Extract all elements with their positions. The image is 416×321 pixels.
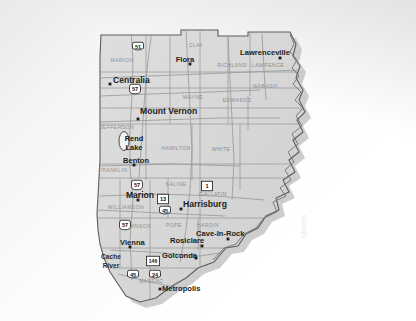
route-number: 57 <box>132 86 138 92</box>
county-label: WAYNE <box>183 94 204 100</box>
county-label: WABASH <box>253 83 278 89</box>
route-shield-us[interactable]: 24 <box>150 270 161 278</box>
county-label: FRANKLIN <box>99 167 128 173</box>
water-label-line1: Cache <box>101 253 121 260</box>
city-label: Benton <box>123 156 150 165</box>
water-label-line2: River <box>103 262 120 269</box>
city-marker[interactable]: Golconda <box>162 251 198 260</box>
city-label: Marion <box>126 190 154 200</box>
city-marker[interactable]: Flora <box>176 55 195 65</box>
route-shield-interstate[interactable]: 57 <box>120 220 131 230</box>
city-label: Metropolis <box>162 284 200 293</box>
route-number: 57 <box>134 182 140 188</box>
city-dot <box>137 118 140 121</box>
route-number: 57 <box>122 222 128 228</box>
route-number: 24 <box>152 272 159 278</box>
water-label: CacheRiver <box>101 253 121 269</box>
city-label: Rosiclare <box>170 236 204 245</box>
city-label: Flora <box>176 55 195 64</box>
city-dot <box>109 83 112 86</box>
city-dot <box>201 245 204 248</box>
route-number: 13 <box>160 196 166 202</box>
route-shield-state[interactable]: 1 <box>202 181 213 191</box>
city-marker[interactable]: Metropolis <box>159 284 201 293</box>
route-shield-interstate[interactable]: 57 <box>132 180 143 190</box>
city-dot <box>180 208 183 211</box>
city-marker[interactable]: Centralia <box>109 75 150 85</box>
city-label: Harrisburg <box>183 199 227 209</box>
county-label: WILLIAMSON <box>108 204 144 210</box>
county-label: RICHLAND <box>217 62 247 68</box>
city-dot <box>279 57 282 60</box>
county-label: HAMILTON <box>161 145 190 151</box>
city-marker[interactable]: Vienna <box>120 238 146 248</box>
illinois-region-map[interactable]: CLAYMARIONRICHLANDLAWRENCEWABASHWAYNEEDW… <box>0 0 416 321</box>
map-watermark: Illinois <box>300 215 307 238</box>
city-label: Centralia <box>113 75 150 85</box>
route-number: 45 <box>162 208 168 214</box>
water-label: RendLake <box>125 134 144 152</box>
route-shield-state[interactable]: 146 <box>147 256 160 266</box>
route-shield-interstate[interactable]: 57 <box>130 84 141 94</box>
county-label: CLAY <box>189 42 204 48</box>
water-label-line2: Lake <box>126 143 143 152</box>
route-shield-us[interactable]: 45 <box>128 270 139 278</box>
city-label: Lawrenceville <box>240 48 290 57</box>
route-shield-us[interactable]: 45 <box>160 206 171 214</box>
city-dot <box>227 238 230 241</box>
county-label: GALLATIN <box>199 191 227 197</box>
county-label: MASSAC <box>139 278 163 284</box>
city-marker[interactable]: Benton <box>123 156 150 166</box>
county-label: SALINE <box>166 181 187 187</box>
route-number: 51 <box>135 44 141 50</box>
county-label: LAWRENCE <box>252 62 284 68</box>
route-number: 146 <box>149 258 158 264</box>
route-number: 1 <box>205 183 208 189</box>
route-number: 45 <box>130 272 136 278</box>
map-canvas[interactable]: CLAYMARIONRICHLANDLAWRENCEWABASHWAYNEEDW… <box>0 0 416 321</box>
city-label: Vienna <box>120 238 146 247</box>
city-marker[interactable]: Marion <box>126 190 154 201</box>
route-shield-us[interactable]: 51 <box>133 42 144 50</box>
county-label: EDWARDS <box>223 97 252 103</box>
county-label: WHITE <box>212 146 231 152</box>
city-label: Mount Vernon <box>140 106 197 116</box>
county-label: MARION <box>110 57 133 63</box>
city-marker[interactable]: Harrisburg <box>180 199 227 210</box>
county-label: HARDIN <box>197 222 219 228</box>
county-label: POPE <box>166 222 182 228</box>
city-label: Golconda <box>162 251 198 260</box>
city-dot <box>159 288 162 291</box>
route-shield-state[interactable]: 13 <box>158 194 169 204</box>
county-label: JEFFERSON <box>100 124 134 130</box>
